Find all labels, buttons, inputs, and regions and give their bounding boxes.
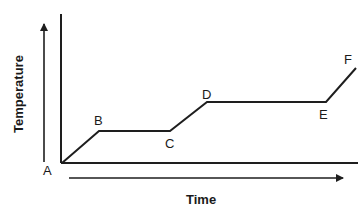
point-label-c: C xyxy=(165,136,174,151)
point-label-d: D xyxy=(202,87,211,102)
heating-curve-line xyxy=(62,68,356,163)
x-axis-title: Time xyxy=(186,192,216,207)
heating-curve-diagram: A B C D E F Time Temperature xyxy=(0,0,363,208)
point-label-f: F xyxy=(344,52,352,67)
point-label-e: E xyxy=(319,107,328,122)
point-label-a: A xyxy=(43,163,52,178)
point-label-b: B xyxy=(94,113,103,128)
y-axis-title: Temperature xyxy=(11,55,26,133)
